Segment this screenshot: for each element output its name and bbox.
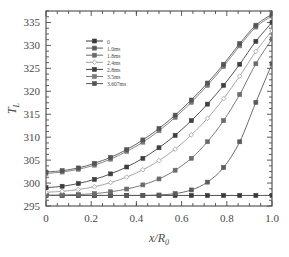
x-tick-label: 1.0	[265, 212, 279, 224]
temperature-profile-line-chart: 00.20.40.60.81.0295300305310315320325330…	[0, 0, 289, 257]
series-marker	[157, 146, 161, 150]
series-marker	[270, 62, 274, 66]
legend-swatch-marker	[93, 53, 97, 57]
series-marker	[222, 62, 226, 66]
series-marker	[141, 193, 145, 197]
y-tick-label: 335	[24, 16, 41, 28]
series-marker	[205, 81, 209, 85]
series-marker	[270, 37, 274, 41]
x-tick-label: 0.2	[84, 212, 98, 224]
series-marker	[270, 12, 274, 16]
y-tick-label: 310	[24, 131, 41, 143]
series-marker	[254, 62, 258, 66]
series-marker	[157, 193, 161, 197]
legend-swatch-marker	[93, 39, 97, 43]
series-marker	[254, 39, 258, 43]
series-marker	[222, 165, 226, 169]
series-marker	[189, 193, 193, 197]
series-marker	[92, 161, 96, 165]
y-axis-title-group: TL	[5, 102, 21, 114]
series-marker	[109, 172, 113, 176]
series-marker	[76, 193, 80, 197]
series-marker	[141, 138, 145, 142]
y-axis-title: TL	[5, 102, 21, 114]
series-marker	[125, 187, 129, 191]
y-axis-title-subscript: L	[12, 102, 21, 108]
series-marker	[125, 165, 129, 169]
legend-swatch-marker	[93, 82, 97, 86]
series-marker	[125, 148, 129, 152]
legend-label: 3.5ms	[107, 74, 121, 80]
series-marker	[189, 188, 193, 192]
series-marker	[254, 23, 258, 27]
series-marker	[173, 192, 177, 196]
series-marker	[205, 140, 209, 144]
series-marker	[238, 62, 242, 66]
series-marker	[173, 133, 177, 137]
series-marker	[222, 119, 226, 123]
legend-label: 2.8ms	[107, 67, 121, 73]
series-marker	[189, 156, 193, 160]
y-tick-label: 325	[24, 62, 41, 74]
y-tick-label: 300	[24, 177, 41, 189]
series-marker	[173, 168, 177, 172]
series-marker	[205, 193, 209, 197]
series-marker	[270, 193, 274, 197]
legend-swatch-marker	[93, 67, 97, 71]
series-marker	[222, 193, 226, 197]
legend-swatch-marker	[93, 46, 97, 50]
series-marker	[205, 102, 209, 106]
legend-label: 2.4ms	[107, 60, 121, 66]
x-tick-label: 0.6	[175, 212, 189, 224]
y-tick-label: 295	[24, 200, 41, 212]
series-marker	[44, 170, 48, 174]
series-marker	[189, 98, 193, 102]
x-axis-title: x/R0	[148, 231, 169, 247]
series-marker	[76, 166, 80, 170]
series-marker	[270, 20, 274, 24]
series-marker	[76, 182, 80, 186]
series-marker	[141, 156, 145, 160]
series-marker	[254, 100, 258, 104]
x-axis-title-subscript: 0	[165, 238, 169, 247]
series-marker	[44, 186, 48, 190]
series-marker	[109, 190, 113, 194]
series-marker	[238, 193, 242, 197]
series-marker	[238, 93, 242, 97]
y-tick-label: 315	[24, 108, 41, 120]
legend-label: 3.607ms	[107, 81, 126, 87]
series-marker	[173, 113, 177, 117]
chart-figure: 00.20.40.60.81.0295300305310315320325330…	[0, 0, 289, 257]
series-marker	[238, 140, 242, 144]
x-tick-label: 0	[43, 212, 49, 224]
legend-label: 1.8ms	[107, 53, 121, 59]
series-marker	[205, 180, 209, 184]
series-marker	[109, 155, 113, 159]
y-tick-label: 305	[24, 154, 41, 166]
series-marker	[157, 126, 161, 130]
series-marker	[60, 169, 64, 173]
series-marker	[141, 183, 145, 187]
series-marker	[254, 193, 258, 197]
legend-label: 1.0ms	[107, 46, 121, 52]
series-marker	[157, 177, 161, 181]
series-marker	[92, 177, 96, 181]
y-tick-label: 330	[24, 39, 41, 51]
legend-swatch-marker	[93, 75, 97, 79]
y-tick-label: 320	[24, 85, 41, 97]
x-tick-label: 0.8	[220, 212, 234, 224]
legend-label: 0	[107, 39, 110, 45]
series-marker	[222, 83, 226, 87]
series-marker	[125, 193, 129, 197]
series-marker	[60, 184, 64, 188]
x-tick-label: 0.4	[130, 212, 144, 224]
series-marker	[92, 192, 96, 196]
series-marker	[238, 42, 242, 46]
series-marker	[189, 119, 193, 123]
